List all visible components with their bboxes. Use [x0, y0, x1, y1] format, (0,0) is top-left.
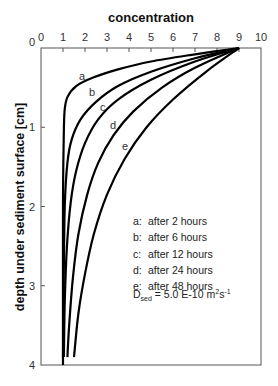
legend: a:after 2 hoursb:after 6 hoursc:after 12…: [133, 215, 213, 292]
legend-item: after 2 hours: [148, 215, 207, 227]
legend-item: after 6 hours: [148, 231, 207, 243]
y-tick-label: 3: [29, 280, 35, 292]
y-tick-label: 0: [29, 36, 35, 48]
x-tick-label: 5: [148, 31, 154, 43]
legend-item: after 12 hours: [148, 248, 213, 260]
y-tick-label: 4: [29, 359, 35, 371]
x-tick-label: 4: [126, 31, 132, 43]
x-tick-label: 0: [38, 31, 44, 43]
chart-title: concentration: [108, 10, 194, 25]
legend-key: a:: [133, 215, 142, 227]
x-tick-label: 1: [60, 31, 66, 43]
x-tick-label: 9: [236, 31, 242, 43]
legend-key: c:: [133, 248, 141, 260]
legend-key: d:: [133, 264, 142, 276]
concentration-depth-chart: concentration 012345678910 01234 abcde d…: [0, 0, 278, 386]
curve-e: [74, 48, 239, 357]
y-axis-ticks: 01234: [29, 36, 45, 371]
x-tick-label: 10: [255, 31, 267, 43]
curve-label-e: e: [122, 140, 128, 152]
legend-key: b:: [133, 231, 142, 243]
x-tick-label: 2: [82, 31, 88, 43]
legend-item: after 24 hours: [148, 264, 213, 276]
curve-label-a: a: [79, 70, 86, 82]
curve-label-c: c: [100, 101, 106, 113]
x-tick-label: 7: [192, 31, 198, 43]
y-tick-label: 2: [29, 201, 35, 213]
curve-label-d: d: [110, 119, 116, 131]
x-tick-label: 3: [104, 31, 110, 43]
x-tick-label: 8: [214, 31, 220, 43]
y-tick-label: 1: [29, 121, 35, 133]
x-tick-label: 6: [170, 31, 176, 43]
curve-label-b: b: [89, 86, 95, 98]
y-axis-label: depth under sediment surface [cm]: [13, 103, 27, 311]
